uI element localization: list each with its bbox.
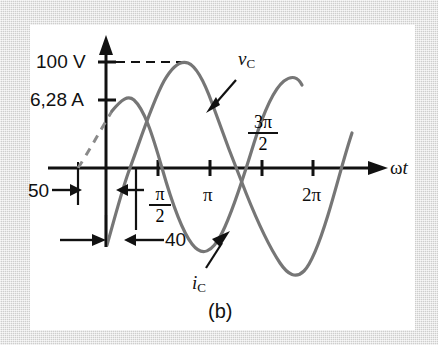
figure-canvas: 100 V 6,28 A π 2 π 3π 2 2π ωt vC iC — [30, 25, 415, 330]
current-curve — [112, 78, 302, 252]
tick-label-3pi-over-2: 3π 2 — [248, 113, 278, 154]
tick-label-pi-over-2-denominator: 2 — [149, 207, 171, 225]
omega-symbol: ω — [390, 157, 403, 178]
current-peak-label: 6,28 A — [30, 90, 84, 109]
figure-frame: 100 V 6,28 A π 2 π 3π 2 2π ωt vC iC — [0, 0, 438, 345]
x-axis — [48, 161, 388, 175]
dimension-50 — [52, 168, 82, 205]
current-curve-label: iC — [192, 273, 206, 294]
phase-offset-50-label: 50 — [28, 181, 49, 200]
phase-offset-40-label: 40 — [165, 230, 186, 249]
tick-label-3pi-over-2-denominator: 2 — [248, 135, 278, 153]
tick-label-pi-over-2-numerator: π — [149, 185, 171, 203]
voltage-subscript: C — [246, 56, 255, 71]
figure-caption: (b) — [208, 301, 232, 321]
current-subscript: C — [197, 280, 206, 295]
waveform-plot — [30, 25, 415, 330]
tick-label-2pi: 2π — [302, 185, 321, 204]
voltage-peak-label: 100 V — [36, 52, 86, 71]
voltage-curve-label: vC — [238, 49, 255, 70]
time-variable: t — [403, 157, 408, 178]
tick-label-pi: π — [203, 185, 213, 204]
tick-label-pi-over-2: π 2 — [149, 185, 171, 226]
tick-label-3pi-over-2-numerator: 3π — [248, 113, 278, 131]
x-axis-label: ωt — [390, 158, 408, 177]
